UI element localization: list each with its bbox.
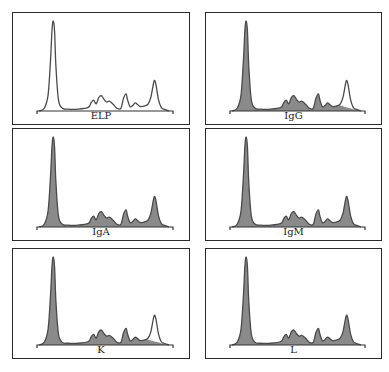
- panel-label: IgA: [13, 226, 189, 237]
- panel-igm: IgM: [205, 128, 382, 241]
- panel-label: K: [13, 344, 189, 355]
- panel-lambda: L: [205, 248, 382, 359]
- panel-kappa: K: [12, 248, 190, 359]
- panel-label: L: [206, 344, 381, 355]
- panel-igg: IgG: [205, 12, 382, 125]
- panel-iga: IgA: [12, 128, 190, 241]
- panel-label: ELP: [13, 110, 189, 121]
- panel-label: IgM: [206, 226, 381, 237]
- panel-label: IgG: [206, 110, 381, 121]
- panel-elp: ELP: [12, 12, 190, 125]
